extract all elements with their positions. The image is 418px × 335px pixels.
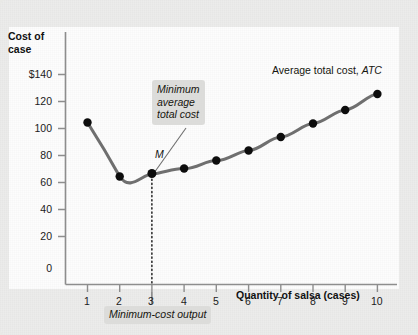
curve-label: Average total cost, ATC [272,64,382,76]
data-point-q10 [373,90,381,98]
curve-label-abbrev: ATC [362,64,382,76]
chart-svg [0,0,418,335]
y-tick-label-80: 80 [14,149,52,161]
y-axis-title-line2: case [8,43,58,56]
atc-curve [88,94,378,183]
callout-min-line2: average [157,96,200,109]
y-tick-label-0: 0 [14,262,52,274]
data-point-q4 [180,164,188,172]
data-point-q7 [277,133,285,141]
y-tick-label-60: 60 [14,176,52,188]
callout-min-line3: total cost [157,108,200,121]
x-tick-label-10: 10 [371,295,383,307]
data-point-q9 [341,106,349,114]
y-tick-label-20: 20 [14,230,52,242]
minimum-point-label: M [155,148,164,160]
data-point-q8 [309,119,317,127]
data-point-q6 [244,146,252,154]
y-tick-label-140: $140 [14,68,52,80]
y-axis-title: Cost of case [8,30,58,55]
y-tick-label-40: 40 [14,203,52,215]
x-tick-label-1: 1 [84,295,90,307]
figure-frame: Cost of case $140 120 100 80 60 40 20 0 … [0,0,418,335]
y-tick-label-120: 120 [14,95,52,107]
data-point-q5 [212,156,220,164]
data-points [83,90,381,181]
callout-minimum-cost-output: Minimum-cost output [104,306,211,324]
data-point-q2 [116,172,124,180]
data-point-q1 [83,118,91,126]
x-tick-label-5: 5 [213,295,219,307]
x-axis-title: Quantity of salsa (cases) [236,289,360,301]
callout-min-line1: Minimum [157,83,200,96]
y-axis-title-line1: Cost of [8,30,58,43]
curve-label-text: Average total cost, [272,64,362,76]
y-tick-label-100: 100 [14,122,52,134]
callout-minimum-average-total-cost: Minimum average total cost [152,80,205,125]
data-point-q3-minimum [147,169,156,178]
